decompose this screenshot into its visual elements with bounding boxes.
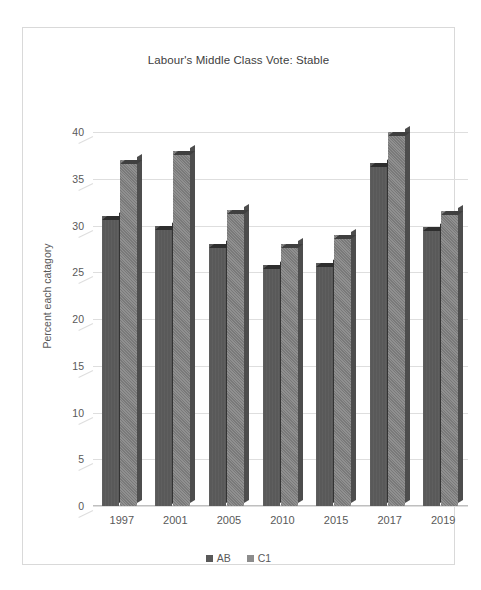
bar-ab-2010 bbox=[263, 265, 280, 506]
chart-frame: Labour's Middle Class Vote: Stable Perce… bbox=[22, 27, 455, 565]
y-axis-tick-label: 40 bbox=[44, 126, 84, 138]
bar-group bbox=[155, 132, 195, 506]
bar-side bbox=[244, 204, 249, 503]
legend-label-ab: AB bbox=[217, 552, 231, 564]
bar-face bbox=[441, 211, 458, 506]
bar-c1-2017 bbox=[388, 132, 405, 506]
bar-face bbox=[120, 160, 137, 506]
chart-legend: AB C1 bbox=[23, 552, 454, 564]
bar-side bbox=[298, 238, 303, 503]
y-axis-tick-label: 5 bbox=[44, 453, 84, 465]
bar-side bbox=[351, 229, 356, 503]
x-axis-tick-label: 2015 bbox=[306, 514, 366, 526]
bar-side bbox=[137, 154, 142, 503]
bar-face bbox=[423, 227, 440, 506]
bar-c1-2015 bbox=[334, 235, 351, 506]
y-axis-tick-label: 20 bbox=[44, 313, 84, 325]
bar-ab-2017 bbox=[370, 163, 387, 506]
x-axis-tick-label: 2019 bbox=[413, 514, 473, 526]
bar-group bbox=[263, 132, 303, 506]
bar-group bbox=[102, 132, 142, 506]
x-axis-ticks: 1997200120052010201520172019 bbox=[93, 514, 468, 534]
bar-ab-2015 bbox=[316, 263, 333, 506]
bar-face bbox=[316, 263, 333, 506]
y-axis-tick-label: 35 bbox=[44, 173, 84, 185]
x-axis-tick-label: 1997 bbox=[92, 514, 152, 526]
legend-swatch-c1 bbox=[247, 555, 254, 562]
y-axis-tick-label: 15 bbox=[44, 360, 84, 372]
y-axis-tick-label: 25 bbox=[44, 266, 84, 278]
bar-ab-2005 bbox=[209, 244, 226, 506]
bar-c1-2019 bbox=[441, 211, 458, 506]
bar-face bbox=[281, 244, 298, 506]
bar-side bbox=[458, 206, 463, 503]
bar-group bbox=[209, 132, 249, 506]
bar-face bbox=[173, 151, 190, 506]
legend-swatch-ab bbox=[206, 555, 213, 562]
bar-ab-2001 bbox=[155, 226, 172, 507]
bar-face bbox=[370, 163, 387, 506]
bar-face bbox=[263, 265, 280, 506]
bar-face bbox=[102, 216, 119, 506]
x-axis-tick-label: 2017 bbox=[360, 514, 420, 526]
y-axis-tick-label: 0 bbox=[44, 500, 84, 512]
bar-ab-2019 bbox=[423, 227, 440, 506]
bar-c1-2010 bbox=[281, 244, 298, 506]
bar-side bbox=[405, 126, 410, 503]
bar-series-container bbox=[93, 132, 468, 506]
bar-face bbox=[155, 226, 172, 507]
bar-group bbox=[423, 132, 463, 506]
bar-group bbox=[316, 132, 356, 506]
legend-item-ab: AB bbox=[206, 552, 231, 564]
y-axis-tick-label: 30 bbox=[44, 220, 84, 232]
gridline bbox=[93, 506, 468, 507]
y-axis-title: Percent each catagory bbox=[41, 243, 53, 348]
bar-face bbox=[388, 132, 405, 506]
bar-face bbox=[209, 244, 226, 506]
bar-c1-2001 bbox=[173, 151, 190, 506]
bar-ab-1997 bbox=[102, 216, 119, 506]
bar-face bbox=[227, 210, 244, 506]
legend-label-c1: C1 bbox=[258, 552, 271, 564]
legend-item-c1: C1 bbox=[247, 552, 271, 564]
bar-c1-2005 bbox=[227, 210, 244, 506]
chart-title: Labour's Middle Class Vote: Stable bbox=[23, 54, 454, 66]
x-axis-tick-label: 2010 bbox=[253, 514, 313, 526]
bar-group bbox=[370, 132, 410, 506]
x-axis-tick-label: 2001 bbox=[145, 514, 205, 526]
bar-c1-1997 bbox=[120, 160, 137, 506]
bar-side bbox=[190, 145, 195, 503]
x-axis-tick-label: 2005 bbox=[199, 514, 259, 526]
y-axis-tick-label: 10 bbox=[44, 407, 84, 419]
plot-area: 0510152025303540 bbox=[93, 132, 468, 506]
bar-face bbox=[334, 235, 351, 506]
